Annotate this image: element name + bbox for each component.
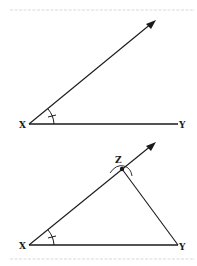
label-x-top: X <box>19 120 26 130</box>
arrow-icon <box>146 20 156 29</box>
top-figure: X Y <box>19 20 186 130</box>
top-ray <box>29 23 152 124</box>
side-zy <box>122 169 178 245</box>
label-x-bottom: X <box>19 241 26 251</box>
bottom-figure: X Y Z <box>19 142 186 252</box>
arrow-icon <box>146 142 156 151</box>
label-y-top: Y <box>178 120 186 130</box>
construction-arc-right <box>124 166 132 176</box>
bottom-ray <box>29 145 152 245</box>
label-y-bottom: Y <box>178 242 186 252</box>
construction-diagram: X Y X Y Z <box>0 0 197 266</box>
label-z: Z <box>115 155 122 165</box>
point-z <box>120 167 124 171</box>
